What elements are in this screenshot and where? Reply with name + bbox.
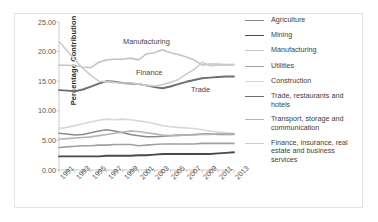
- legend-label: Utilities: [267, 62, 363, 71]
- series-line-construction: [59, 119, 234, 133]
- y-axis-tick-label: 25.00: [22, 18, 56, 27]
- legend-label: Trade, restaurants and hotels: [267, 92, 363, 109]
- y-axis-tick-label: 5.00: [22, 136, 56, 145]
- legend-item[interactable]: Trade, restaurants and hotels: [245, 92, 363, 109]
- legend-line-swatch: [245, 119, 264, 120]
- legend-swatch-wrap: [245, 62, 267, 71]
- legend-label: Construction: [267, 77, 363, 86]
- y-axis-tick-label: 0.00: [22, 166, 56, 175]
- series-annotation-finance: Finance: [136, 68, 162, 77]
- legend-item[interactable]: Transport, storage and communication: [245, 115, 363, 132]
- legend-swatch-wrap: [245, 92, 267, 101]
- legend-item[interactable]: Finance, insurance, real estate and busi…: [245, 139, 363, 165]
- y-axis-tick-label: 10.00: [22, 106, 56, 115]
- legend-label: Manufacturing: [267, 46, 363, 55]
- legend-label: Mining: [267, 31, 363, 40]
- series-annotation-trade: Trade: [191, 85, 210, 94]
- legend-line-swatch: [245, 81, 264, 82]
- legend-swatch-wrap: [245, 16, 267, 25]
- y-axis-tick-label: 20.00: [22, 47, 56, 56]
- y-axis-tick-label: 15.00: [22, 77, 56, 86]
- legend-line-swatch: [245, 20, 264, 21]
- legend-swatch-wrap: [245, 46, 267, 55]
- legend-line-swatch: [245, 96, 264, 97]
- x-axis-tick-labels: 1991199319951997199920012003200520072009…: [59, 170, 234, 210]
- legend-line-swatch: [245, 35, 264, 36]
- line-chart-figure: Percentage Contribution 0.005.0010.0015.…: [0, 0, 378, 222]
- legend-item[interactable]: Utilities: [245, 62, 363, 71]
- legend-line-swatch: [245, 66, 264, 67]
- legend-item[interactable]: Construction: [245, 77, 363, 86]
- legend-swatch-wrap: [245, 115, 267, 124]
- series-line-mining: [59, 152, 234, 156]
- legend-item[interactable]: Manufacturing: [245, 46, 363, 55]
- chart-legend: AgricultureMiningManufacturingUtilitiesC…: [245, 16, 363, 171]
- y-axis-tick-labels: 0.005.0010.0015.0020.0025.00: [20, 22, 56, 170]
- legend-swatch-wrap: [245, 77, 267, 86]
- legend-label: Transport, storage and communication: [267, 115, 363, 132]
- series-line-utilities: [59, 143, 234, 147]
- series-line-transport-storage-and-communication: [59, 131, 234, 139]
- legend-item[interactable]: Agriculture: [245, 16, 363, 25]
- legend-line-swatch: [245, 143, 264, 144]
- legend-line-swatch: [245, 50, 264, 51]
- legend-item[interactable]: Mining: [245, 31, 363, 40]
- series-annotation-manufacturing: Manufacturing: [123, 37, 170, 46]
- legend-label: Finance, insurance, real estate and busi…: [267, 139, 363, 165]
- legend-swatch-wrap: [245, 139, 267, 148]
- legend-label: Agriculture: [267, 16, 363, 25]
- legend-swatch-wrap: [245, 31, 267, 40]
